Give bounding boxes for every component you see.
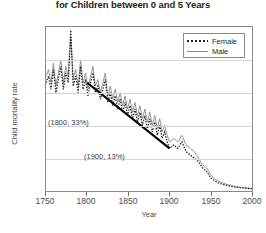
legend-item-male: Male — [187, 46, 241, 56]
x-tick-label: 1900 — [149, 196, 189, 206]
chart-legend: Female Male — [183, 33, 245, 58]
solid-line-swatch-icon — [187, 48, 208, 54]
y-axis-title: Child mortality rate — [10, 54, 19, 174]
gridline — [46, 60, 252, 61]
chart-figure: for Children between 0 and 5 Years Child… — [0, 0, 266, 233]
gridline — [46, 159, 252, 160]
x-axis-title: Year — [45, 210, 253, 219]
x-tick-label: 1950 — [191, 196, 231, 206]
x-tick-label: 1800 — [66, 196, 106, 206]
chart-title: for Children between 0 and 5 Years — [0, 0, 266, 10]
gridline — [46, 93, 252, 94]
dotted-line-swatch-icon — [187, 38, 208, 44]
annotation-1800: (1800, 33%) — [48, 118, 89, 127]
legend-label: Female — [212, 37, 237, 46]
x-tick-label: 2000 — [232, 196, 266, 206]
annotation-1900: (1900, 13%) — [84, 152, 125, 161]
legend-item-female: Female — [187, 36, 241, 46]
x-tick-label: 1750 — [25, 196, 65, 206]
x-tick-label: 1850 — [108, 196, 148, 206]
legend-label: Male — [212, 47, 228, 56]
